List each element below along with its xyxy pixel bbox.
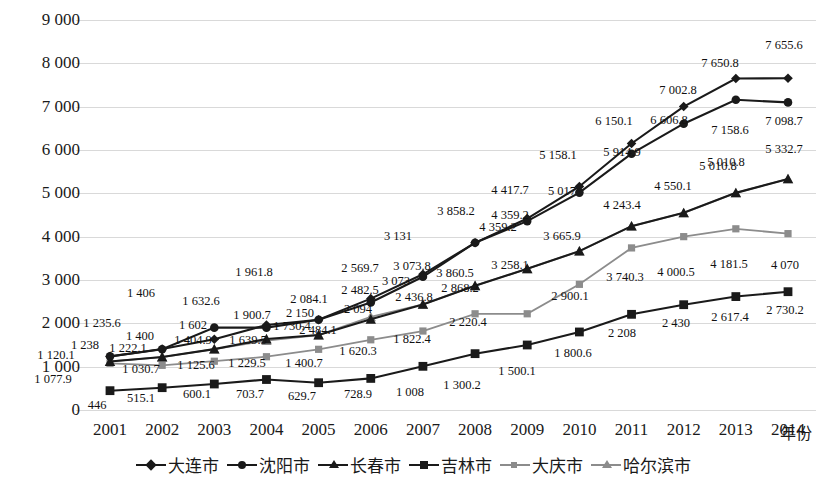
chart-legend: 大连市沈阳市长春市吉林市大庆市哈尔滨市 — [0, 452, 826, 477]
data-point-label: 4 359.2 — [479, 221, 517, 234]
legend-item[interactable]: 哈尔滨市 — [587, 452, 695, 477]
data-point-label: 2 617.4 — [711, 311, 749, 324]
data-point-label: 1 500.1 — [498, 365, 536, 378]
legend-marker-icon — [409, 458, 439, 472]
data-point-label: 728.9 — [344, 388, 372, 401]
data-point-label: 5 158.1 — [539, 149, 577, 162]
data-point-label: 3 073 — [382, 275, 410, 288]
legend-label: 大庆市 — [532, 452, 583, 477]
legend-marker-icon — [227, 458, 257, 472]
legend-item[interactable]: 吉林市 — [405, 452, 496, 477]
data-point-marker — [314, 378, 323, 387]
y-axis-tick-label: 4 000 — [42, 227, 80, 247]
legend-item[interactable]: 大庆市 — [496, 452, 587, 477]
data-point-label: 2 430 — [662, 317, 690, 330]
data-point-marker — [784, 287, 793, 296]
x-axis-tick-label: 2001 — [93, 420, 127, 440]
data-point-marker — [783, 174, 793, 184]
data-point-marker — [158, 383, 167, 392]
data-point-label: 1 400.7 — [285, 357, 323, 370]
data-point-label: 1 235.6 — [83, 317, 121, 330]
x-axis-tick-label: 2008 — [458, 420, 492, 440]
data-point-marker — [679, 300, 688, 309]
data-point-label: 2 084.1 — [290, 293, 328, 306]
data-point-marker — [419, 362, 428, 371]
data-point-label: 1 404.9 — [174, 334, 212, 347]
data-point-label: 629.7 — [288, 390, 316, 403]
legend-marker-icon — [136, 458, 166, 472]
data-point-label: 4 417.7 — [491, 184, 529, 197]
legend-label: 吉林市 — [441, 452, 492, 477]
data-point-label: 3 258.1 — [491, 259, 529, 272]
x-axis-tick-label: 2004 — [249, 420, 283, 440]
data-point-label: 2 569.7 — [341, 262, 379, 275]
data-point-label: 1 030.7 — [122, 363, 160, 376]
data-point-label: 2 436.8 — [395, 291, 433, 304]
data-point-marker — [523, 341, 532, 350]
x-axis-tick-label: 2005 — [302, 420, 336, 440]
data-point-label: 1 961.8 — [235, 266, 273, 279]
data-point-label: 515.1 — [127, 392, 155, 405]
data-point-label: 2 868.2 — [441, 282, 479, 295]
gridline — [76, 410, 816, 411]
data-point-label: 3 860.5 — [436, 267, 474, 280]
data-point-marker — [784, 230, 791, 237]
data-point-marker — [732, 95, 741, 104]
data-point-label: 4 243.4 — [603, 199, 641, 212]
data-point-label: 1 229.5 — [228, 357, 266, 370]
x-axis-tick-label: 2010 — [562, 420, 596, 440]
data-point-label: 2 482.5 — [341, 284, 379, 297]
data-point-marker — [680, 233, 687, 240]
data-point-label: 6 606.8 — [650, 114, 688, 127]
data-point-marker — [367, 336, 374, 343]
data-point-marker — [732, 225, 739, 232]
y-axis-tick-label: 6 000 — [42, 140, 80, 160]
x-axis-tick-label: 2006 — [354, 420, 388, 440]
legend-label: 哈尔滨市 — [623, 452, 691, 477]
legend-item[interactable]: 大连市 — [132, 452, 223, 477]
data-point-label: 1 125.6 — [177, 359, 215, 372]
data-point-marker — [784, 98, 793, 107]
legend-label: 大连市 — [168, 452, 219, 477]
x-axis-tick-label: 2003 — [197, 420, 231, 440]
x-axis-title: 年份 — [780, 420, 812, 444]
legend-item[interactable]: 长春市 — [314, 452, 405, 477]
data-point-marker — [575, 328, 584, 337]
data-point-marker — [471, 349, 480, 358]
data-point-marker — [366, 374, 375, 383]
legend-item[interactable]: 沈阳市 — [223, 452, 314, 477]
data-point-label: 4 181.5 — [710, 258, 748, 271]
y-axis-tick-label: 8 000 — [42, 53, 80, 73]
y-axis-tick-label: 9 000 — [42, 10, 80, 30]
plot-area: 1 235.61 4061 632.61 961.82 084.12 569.7… — [76, 20, 816, 410]
data-point-marker — [524, 310, 531, 317]
data-point-marker — [628, 244, 635, 251]
data-point-label: 3 073.8 — [393, 260, 431, 273]
data-point-label: 4 070 — [771, 259, 799, 272]
x-axis-tick-label: 2013 — [719, 420, 753, 440]
data-point-label: 1 900.7 — [233, 309, 271, 322]
y-axis-tick-label: 5 000 — [42, 183, 80, 203]
data-point-label: 1 730.4 — [273, 320, 311, 333]
data-point-label: 1 639.5 — [229, 334, 267, 347]
data-point-label: 5 010.8 — [699, 160, 737, 173]
data-point-label: 1 620.3 — [339, 345, 377, 358]
data-point-label: 1 300.2 — [443, 379, 481, 392]
data-point-label: 1 822.4 — [393, 333, 431, 346]
y-axis-tick-label: 1 000 — [42, 357, 80, 377]
data-point-label: 2 220.4 — [449, 316, 487, 329]
data-point-marker — [262, 375, 271, 384]
data-point-label: 7 002.8 — [659, 84, 697, 97]
y-axis-tick-label: 2 000 — [42, 313, 80, 333]
data-point-label: 2 150 — [286, 307, 314, 320]
legend-marker-icon — [318, 458, 348, 472]
x-axis-tick-label: 2011 — [615, 420, 648, 440]
y-axis-tick-label: 7 000 — [42, 97, 80, 117]
legend-marker-icon — [591, 458, 621, 472]
data-point-marker — [574, 246, 584, 256]
data-point-label: 4 000.5 — [657, 266, 695, 279]
y-axis-tick-label: 3 000 — [42, 270, 80, 290]
data-point-marker — [315, 346, 322, 353]
data-point-label: 6 150.1 — [595, 115, 633, 128]
data-point-marker — [627, 310, 636, 319]
